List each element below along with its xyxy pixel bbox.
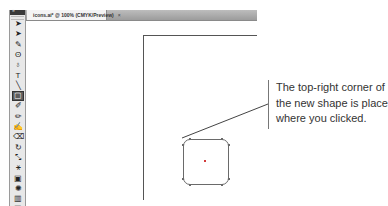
callout-bar xyxy=(268,80,269,129)
callout-line: The top-right corner of xyxy=(276,80,388,96)
callout-line: where you clicked. xyxy=(276,111,388,127)
callout-text: The top-right corner of the new shape is… xyxy=(276,80,388,127)
callout-line: the new shape is placed xyxy=(276,96,388,112)
